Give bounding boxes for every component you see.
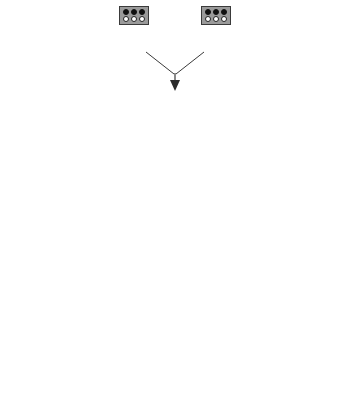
down-arrow-icon — [0, 50, 349, 92]
distribution-chart — [0, 140, 349, 390]
figure-root — [0, 0, 349, 395]
parent-2 — [201, 6, 231, 27]
chart-plot-area — [0, 140, 349, 390]
allele-dot-open — [213, 16, 219, 22]
mating-arrow-group — [0, 50, 349, 92]
allele-dot-filled — [221, 9, 227, 15]
allele-dot-open — [123, 16, 129, 22]
allele-dot-open — [205, 16, 211, 22]
allele-dot-filled — [213, 9, 219, 15]
parent-1-genotype-box — [119, 6, 149, 25]
parental-cross — [0, 6, 349, 27]
dot-row-bottom — [205, 16, 227, 22]
dot-row-bottom — [123, 16, 145, 22]
allele-dot-filled — [131, 9, 137, 15]
parent-2-genotype-box — [201, 6, 231, 25]
allele-dot-open — [221, 16, 227, 22]
allele-dot-open — [131, 16, 137, 22]
allele-dot-filled — [139, 9, 145, 15]
parent-1 — [119, 6, 149, 27]
dot-row-top — [205, 9, 227, 15]
allele-dot-filled — [205, 9, 211, 15]
dot-row-top — [123, 9, 145, 15]
allele-dot-open — [139, 16, 145, 22]
allele-dot-filled — [123, 9, 129, 15]
